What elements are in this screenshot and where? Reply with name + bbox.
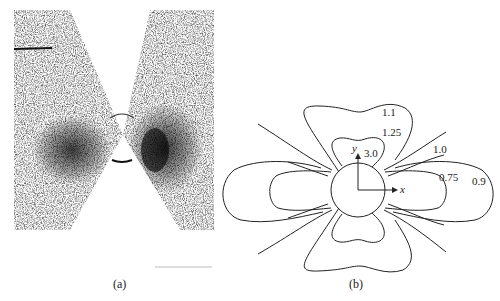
caption-b: (b) [349,277,363,292]
label-3.0: 3.0 [364,147,378,159]
label-1.25: 1.25 [382,126,402,138]
label-1.1: 1.1 [382,106,396,118]
y-axis-label: y [351,142,357,154]
label-1.0: 1.0 [433,143,447,155]
x-axis-label: x [399,183,405,195]
label-0.9: 0.9 [472,175,486,187]
contour-diagram: x y 1.1 1.25 3.0 1.0 0.75 0.9 [0,0,500,301]
contour-0.75-left [270,171,331,211]
label-0.75: 0.75 [439,171,459,183]
